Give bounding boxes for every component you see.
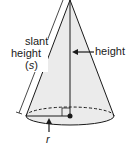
slant-symbol-label: (s) xyxy=(25,60,38,71)
height-label: height xyxy=(95,46,125,57)
paren-close: ) xyxy=(34,59,38,71)
cone-figure xyxy=(0,0,136,147)
cone-diagram: slant height (s) height r xyxy=(0,0,136,147)
slant-label: slant xyxy=(25,36,48,47)
radius-label: r xyxy=(46,134,50,145)
slant-height-label: height xyxy=(11,48,41,59)
center-dot xyxy=(68,114,73,119)
